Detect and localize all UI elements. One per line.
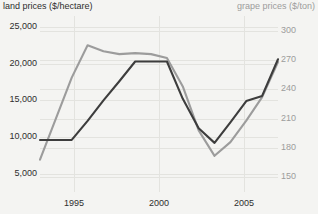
dual-axis-line-chart: land prices ($/hectare) grape prices ($/… [0, 0, 318, 214]
series-lines [0, 0, 318, 214]
